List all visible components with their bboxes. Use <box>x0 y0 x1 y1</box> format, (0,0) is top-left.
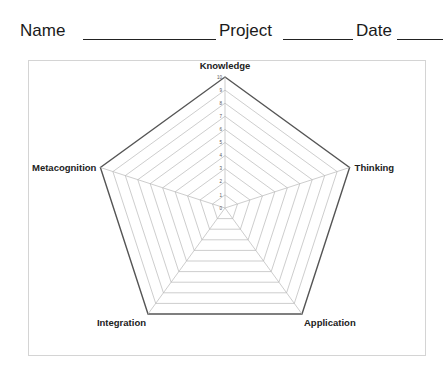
radar-tick-label: 0 <box>219 206 222 211</box>
axis-label-knowledge: Knowledge <box>200 60 251 71</box>
axis-label-thinking: Thinking <box>355 162 395 173</box>
axis-label-integration: Integration <box>97 317 146 328</box>
radar-tick-label: 10 <box>217 75 223 80</box>
radar-spokes <box>100 77 349 314</box>
axis-label-application: Application <box>304 317 356 328</box>
axis-label-metacognition: Metacognition <box>32 162 97 173</box>
radar-axis-labels: KnowledgeThinkingApplicationIntegrationM… <box>32 60 394 328</box>
radar-chart: 012345678910 KnowledgeThinkingApplicatio… <box>0 0 447 374</box>
radar-spoke <box>100 168 225 209</box>
radar-spoke <box>225 168 350 209</box>
